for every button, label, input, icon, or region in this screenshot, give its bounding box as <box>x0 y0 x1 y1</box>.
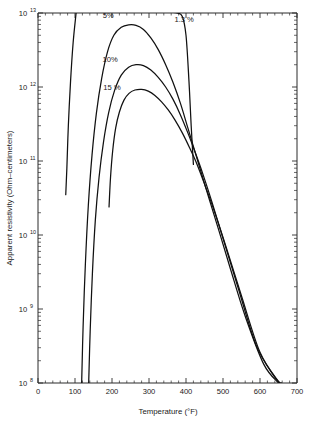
y-tick-labels: 1081091010101110121013 <box>19 7 36 389</box>
x-tick-label: 0 <box>36 387 40 396</box>
x-tick-label: 300 <box>143 387 156 396</box>
y-tick-label: 1010 <box>19 229 36 241</box>
y-tick-label: 1013 <box>19 7 36 19</box>
curve-labels: 1.3 %5%10%15 % <box>103 11 195 92</box>
y-tick-label: 1012 <box>19 81 36 93</box>
y-tick-exponent: 8 <box>30 377 33 383</box>
y-tick-base: 10 <box>19 231 27 240</box>
x-tick-label: 400 <box>180 387 193 396</box>
y-tick-label: 108 <box>19 377 33 389</box>
x-axis-title-text: Temperature (°F) <box>138 407 197 416</box>
x-tick-label: 700 <box>291 387 304 396</box>
y-tick-exponent: 9 <box>30 303 33 309</box>
resistivity-vs-temperature-chart: Apparent resistivity (Ohm–centimeters) 1… <box>0 0 316 424</box>
y-tick-base: 10 <box>19 379 27 388</box>
y-tick-label: 109 <box>19 303 33 315</box>
y-axis-title-text: Apparent resistivity (Ohm–centimeters) <box>5 130 14 265</box>
x-tick-label: 200 <box>106 387 119 396</box>
y-tick-label: 1011 <box>19 155 36 167</box>
y-tick-base: 10 <box>19 83 27 92</box>
x-tick-label: 500 <box>217 387 230 396</box>
curve-13 <box>66 0 194 195</box>
y-tick-exponent: 11 <box>30 155 36 161</box>
chart-figure: Apparent resistivity (Ohm–centimeters) 1… <box>0 0 316 424</box>
y-tick-base: 10 <box>19 305 27 314</box>
y-tick-exponent: 13 <box>30 7 36 13</box>
curve-label-13: 1.3 % <box>174 15 194 24</box>
curve-5 <box>82 25 279 383</box>
curve-label-10: 10% <box>103 55 118 64</box>
y-axis-title: Apparent resistivity (Ohm–centimeters) <box>5 130 14 265</box>
curve-label-5: 5% <box>103 11 114 20</box>
y-tick-exponent: 12 <box>30 81 36 87</box>
y-tick-base: 10 <box>19 157 27 166</box>
x-tick-labels: 0100200300400500600700 <box>36 387 303 396</box>
data-curves <box>66 0 282 384</box>
x-tick-label: 100 <box>69 387 82 396</box>
x-tick-label: 600 <box>254 387 267 396</box>
y-tick-base: 10 <box>19 9 27 18</box>
curve-15 <box>109 89 281 384</box>
curve-label-15: 15 % <box>103 83 121 92</box>
y-tick-exponent: 10 <box>30 229 36 235</box>
x-axis-title: Temperature (°F) <box>138 407 197 416</box>
